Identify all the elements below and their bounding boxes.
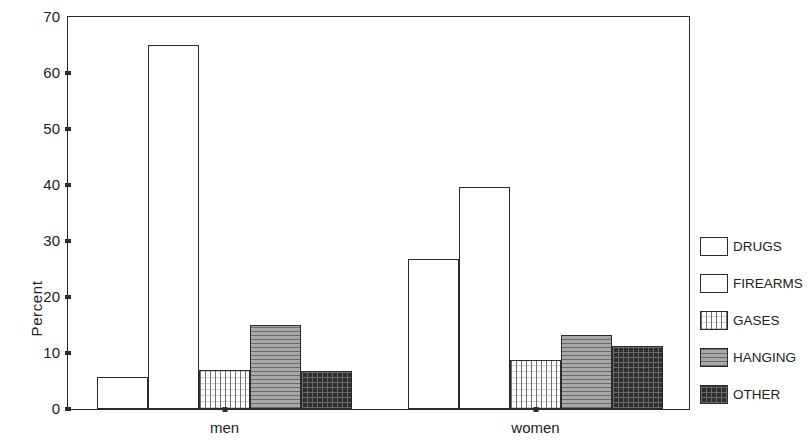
- y-axis-tick-mark: [65, 127, 71, 131]
- legend-item-drugs[interactable]: DRUGS: [700, 228, 806, 265]
- legend-label: HANGING: [733, 350, 796, 365]
- bar-women-hanging: [561, 335, 612, 409]
- legend-swatch-firearms: [700, 274, 728, 293]
- x-axis-tick-mark: [533, 407, 538, 412]
- legend-item-other[interactable]: OTHER: [700, 376, 806, 413]
- y-axis-tick-mark: [65, 295, 71, 299]
- y-axis-tick-mark: [65, 351, 71, 355]
- legend-label: GASES: [733, 313, 780, 328]
- bar-chart: Percent 010203040506070 menwomen DRUGSFI…: [0, 0, 808, 444]
- y-axis-tick-label: 30: [30, 232, 60, 249]
- bar-women-other: [612, 346, 663, 409]
- y-axis-tick-label: 60: [30, 64, 60, 81]
- legend-item-hanging[interactable]: HANGING: [700, 339, 806, 376]
- bar-women-drugs: [408, 259, 459, 409]
- legend: DRUGSFIREARMSGASESHANGINGOTHER: [700, 228, 806, 413]
- bar-women-gases: [510, 360, 561, 409]
- bar-women-firearms: [459, 187, 510, 409]
- y-axis-tick-label: 0: [30, 400, 60, 417]
- legend-item-firearms[interactable]: FIREARMS: [700, 265, 806, 302]
- y-axis-tick-mark: [65, 71, 71, 75]
- legend-swatch-other: [700, 385, 728, 404]
- y-axis-tick-label: 10: [30, 344, 60, 361]
- legend-swatch-drugs: [700, 237, 728, 256]
- plot-area: [67, 16, 690, 410]
- legend-label: FIREARMS: [733, 276, 803, 291]
- legend-item-gases[interactable]: GASES: [700, 302, 806, 339]
- bar-men-hanging: [250, 325, 301, 409]
- legend-label: DRUGS: [733, 239, 782, 254]
- legend-swatch-hanging: [700, 348, 728, 367]
- y-axis-tick-label: 70: [30, 8, 60, 25]
- y-axis-tick-label: 40: [30, 176, 60, 193]
- x-axis-group-label: men: [165, 419, 285, 436]
- legend-swatch-gases: [700, 311, 728, 330]
- legend-label: OTHER: [733, 387, 780, 402]
- y-axis-tick-mark: [65, 183, 71, 187]
- y-axis-tick-mark: [65, 407, 71, 411]
- y-axis-tick-labels: 010203040506070: [0, 0, 60, 444]
- bar-men-other: [301, 371, 352, 409]
- y-axis-tick-mark: [65, 239, 71, 243]
- bar-men-gases: [199, 370, 250, 409]
- y-axis-tick-label: 50: [30, 120, 60, 137]
- x-axis-group-label: women: [476, 419, 596, 436]
- bar-men-drugs: [97, 377, 148, 409]
- x-axis-tick-mark: [222, 407, 227, 412]
- y-axis-tick-label: 20: [30, 288, 60, 305]
- bar-men-firearms: [148, 45, 199, 409]
